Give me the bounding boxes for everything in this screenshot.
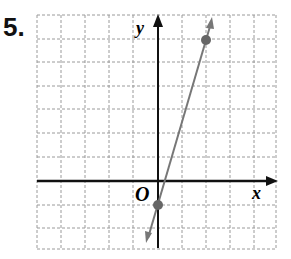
x-axis-label: x (251, 183, 261, 203)
line-arrow-up-icon (206, 17, 214, 29)
origin-label: O (135, 183, 149, 205)
point-0-neg1 (153, 200, 163, 210)
line-arrow-down-icon (145, 231, 152, 243)
grid (37, 15, 276, 249)
point-2-6 (201, 35, 211, 45)
y-axis-label: y (134, 18, 145, 38)
y-arrow-icon (153, 14, 163, 27)
coordinate-plane: y x O (0, 0, 291, 259)
